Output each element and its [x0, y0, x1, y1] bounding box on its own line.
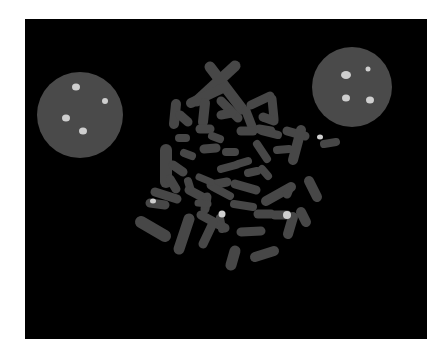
fish-metaphase-spread [25, 19, 427, 339]
fish-signal-spot [62, 115, 70, 122]
chromosome [263, 117, 274, 121]
chromosome [173, 165, 183, 172]
fish-signal-spot [79, 128, 87, 135]
interphase-nucleus [312, 47, 392, 127]
chromosome [203, 223, 213, 244]
fish-signal-spot [341, 71, 351, 79]
chromosome [262, 131, 278, 135]
chromosome [141, 222, 165, 236]
chromosome [184, 153, 192, 156]
chromosome [179, 219, 189, 249]
chromosome [198, 203, 208, 204]
chromosome [212, 136, 220, 139]
fish-signal-spot [317, 135, 323, 140]
chromosome [231, 251, 235, 265]
chromosome [248, 171, 257, 173]
fish-signal-spot [72, 84, 80, 91]
chromosome [221, 113, 232, 115]
chromosome [221, 165, 236, 169]
chromosome [235, 184, 256, 190]
fish-signal-spot [283, 211, 291, 219]
chromosome [309, 181, 317, 197]
chromosome [251, 96, 270, 105]
chromosome [204, 148, 216, 149]
chromosome [277, 149, 289, 150]
fish-signal-spot [219, 211, 226, 218]
fish-signal-spot [366, 97, 374, 104]
chromosome [257, 144, 267, 159]
chromosome [246, 111, 253, 129]
interphase-nucleus [37, 72, 123, 158]
chromosome [241, 231, 261, 232]
chromosome [203, 103, 205, 122]
chromosome [324, 142, 336, 144]
chromosome [255, 251, 274, 257]
fish-signal-spot [150, 199, 156, 204]
fish-signal-spot [102, 98, 108, 104]
chromosome [262, 169, 268, 176]
chromosome [287, 189, 289, 194]
chromosome [288, 217, 293, 234]
chromosome [213, 187, 230, 196]
chromosome [301, 212, 306, 222]
chromosome [199, 177, 211, 182]
metaphase-chromosomes [141, 66, 336, 265]
chromosome [180, 115, 188, 122]
microscopy-image [25, 19, 427, 339]
chromosome [234, 204, 253, 207]
chromosome [155, 192, 177, 199]
fish-signal-spot [366, 67, 371, 72]
chromosome [170, 179, 176, 189]
fish-signal-spot [342, 95, 350, 102]
